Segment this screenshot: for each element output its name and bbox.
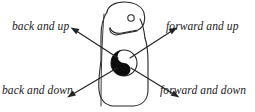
label-forward-and-down: forward and down [160,85,246,97]
arrow-back-and-down [67,68,117,98]
label-forward-and-up: forward and up [166,21,239,33]
label-back-and-up: back and up [12,21,69,33]
label-back-and-down: back and down [2,85,73,97]
direction-diagram: back and up forward and up back and down… [0,0,255,112]
center-ball [111,50,137,76]
head-outline [107,2,145,35]
eye-icon [128,15,134,21]
